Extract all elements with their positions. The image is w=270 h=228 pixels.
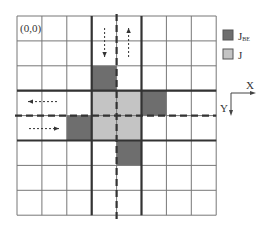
axes-indicator: X Y — [220, 79, 256, 116]
interior-cell — [92, 91, 117, 116]
interior-cell — [117, 116, 142, 141]
arrow-right-head — [54, 126, 59, 130]
legend-label-jbe: JBE — [238, 30, 250, 42]
legend: JBE J — [223, 30, 250, 61]
boundary-cell — [142, 91, 167, 116]
boundary-cell — [117, 141, 142, 166]
domain-decomposition-diagram: (0,0) JBE J X Y — [0, 0, 270, 228]
interior-cell — [117, 91, 142, 116]
arrow-left-head — [28, 99, 33, 103]
arrow-up-head — [126, 28, 130, 33]
boundary-cell — [67, 116, 92, 141]
y-axis-label: Y — [220, 102, 228, 114]
x-axis-arrowhead — [250, 91, 256, 95]
y-axis-arrowhead — [229, 110, 233, 116]
boundary-cell — [92, 66, 117, 91]
interior-cell — [92, 116, 117, 141]
legend-label-j: J — [238, 49, 243, 61]
arrow-down-head — [102, 52, 106, 57]
origin-label: (0,0) — [20, 22, 41, 35]
x-axis-label: X — [246, 79, 254, 91]
legend-swatch-j — [223, 49, 233, 59]
legend-swatch-jbe — [223, 30, 233, 40]
